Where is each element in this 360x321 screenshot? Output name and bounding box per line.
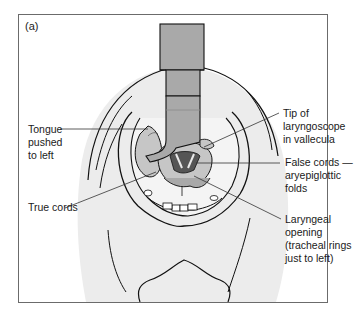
- label-false-cords: False cords — aryepiglottic folds: [285, 156, 353, 195]
- label-tip-of-laryngoscope: Tip of laryngoscope in vallecula: [283, 107, 345, 146]
- laryngoscope-handle: [160, 24, 204, 70]
- label-true-cords: True cords: [28, 201, 78, 214]
- label-tongue: Tongue pushed to left: [28, 123, 62, 162]
- label-laryngeal-opening: Laryngeal opening (tracheal rings just t…: [285, 213, 352, 265]
